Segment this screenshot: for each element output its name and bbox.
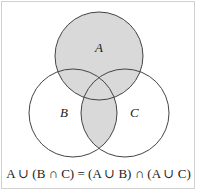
- formula-equals: =: [77, 166, 84, 181]
- venn-diagram: A B C: [0, 0, 197, 190]
- set-c-label: C: [130, 105, 139, 120]
- formula-left: A ∪ (B ∩ C): [6, 166, 74, 181]
- identity-formula: A ∪ (B ∩ C) = (A ∪ B) ∩ (A ∪ C): [0, 166, 197, 182]
- set-a-label: A: [94, 40, 103, 55]
- set-b-label: B: [60, 105, 68, 120]
- formula-right: (A ∪ B) ∩ (A ∪ C): [88, 166, 191, 181]
